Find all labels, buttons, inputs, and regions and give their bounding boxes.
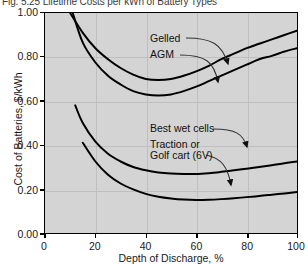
x-tick-label-4: 80 [232,240,262,252]
annotation-gelled: Gelled [150,33,180,45]
x-tick-mark-4 [247,234,249,238]
figure-title: Fig. 5.25 Lifetime Costs per kWh of Batt… [2,0,306,8]
y-tick-label-1: 0.20 [0,184,38,196]
x-tick-mark-5 [297,234,299,238]
x-tick-mark-2 [146,234,148,238]
x-tick-mark-0 [44,234,46,238]
curve-agm [73,13,297,96]
y-axis-label: Cost of Batteries, $/kWh [12,54,24,204]
y-tick-label-2: 0.40 [0,139,38,151]
x-tick-label-1: 20 [80,240,110,252]
y-tick-label-3: 0.60 [0,95,38,107]
x-axis-label: Depth of Discharge, % [44,252,298,264]
annotation-traction-line2: Golf cart (6V) [150,150,212,162]
y-tick-label-0: 0.00 [0,228,38,240]
x-tick-mark-3 [196,234,198,238]
curve-gelled [70,13,297,80]
y-tick-label-4: 0.80 [0,50,38,62]
figure-container: Fig. 5.25 Lifetime Costs per kWh of Batt… [0,0,308,269]
x-tick-mark-1 [95,234,97,238]
annotation-best-wet-cells: Best wet cells [150,123,214,135]
x-tick-label-5: 100 [281,240,308,252]
y-tick-label-5: 1.00 [0,6,38,18]
x-tick-label-2: 40 [131,240,161,252]
x-tick-label-0: 0 [29,240,59,252]
x-tick-label-3: 60 [181,240,211,252]
annotation-agm: AGM [150,49,174,61]
